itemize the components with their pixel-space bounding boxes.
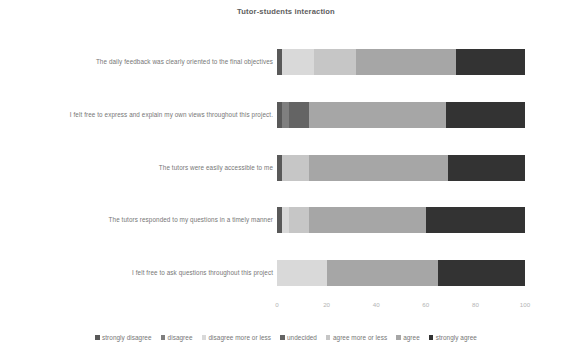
x-axis-tick-label: 20 bbox=[323, 301, 330, 308]
category-label: The tutors were easily accessible to me bbox=[11, 164, 273, 172]
legend-item[interactable]: agree bbox=[396, 334, 420, 341]
legend-item[interactable]: disagree bbox=[161, 334, 193, 341]
plot-area bbox=[277, 36, 525, 299]
bar-segment[interactable] bbox=[446, 102, 525, 128]
legend-item[interactable]: disagree more or less bbox=[202, 334, 272, 341]
category-axis-labels: The daily feedback was clearly oriented … bbox=[8, 36, 273, 299]
bar-segment[interactable] bbox=[282, 207, 289, 233]
x-axis-tick-label: 0 bbox=[275, 301, 278, 308]
category-label: The tutors responded to my questions in … bbox=[11, 216, 273, 224]
bar-segment[interactable] bbox=[327, 260, 439, 286]
bar-segment[interactable] bbox=[309, 102, 445, 128]
bar-segment[interactable] bbox=[282, 49, 314, 75]
bar-segment[interactable] bbox=[309, 155, 448, 181]
legend-swatch-icon bbox=[161, 335, 166, 340]
legend-label: disagree more or less bbox=[209, 334, 272, 341]
x-axis-tick-label: 100 bbox=[520, 301, 530, 308]
bar-row[interactable] bbox=[277, 155, 525, 181]
legend-label: disagree bbox=[168, 334, 193, 341]
legend-label: strongly agree bbox=[436, 334, 477, 341]
category-label: I felt free to express and explain my ow… bbox=[11, 111, 273, 119]
category-label: The daily feedback was clearly oriented … bbox=[11, 58, 273, 66]
bar-segment[interactable] bbox=[438, 260, 525, 286]
bar-row[interactable] bbox=[277, 49, 525, 75]
legend-swatch-icon bbox=[202, 335, 207, 340]
category-label: I felt free to ask questions throughout … bbox=[11, 269, 273, 277]
bar-segment[interactable] bbox=[456, 49, 525, 75]
legend-swatch-icon bbox=[280, 335, 285, 340]
bar-segment[interactable] bbox=[289, 207, 309, 233]
bar-row[interactable] bbox=[277, 260, 525, 286]
bar-row[interactable] bbox=[277, 102, 525, 128]
legend-label: strongly disagree bbox=[102, 334, 152, 341]
x-axis-tick-label: 40 bbox=[373, 301, 380, 308]
bar-segment[interactable] bbox=[282, 155, 309, 181]
legend-item[interactable]: strongly agree bbox=[429, 334, 477, 341]
bar-row[interactable] bbox=[277, 207, 525, 233]
legend-item[interactable]: strongly disagree bbox=[95, 334, 152, 341]
bar-segment[interactable] bbox=[314, 49, 356, 75]
bar-segment[interactable] bbox=[448, 155, 525, 181]
legend-swatch-icon bbox=[326, 335, 331, 340]
legend-label: undecided bbox=[287, 334, 317, 341]
legend-label: agree bbox=[403, 334, 420, 341]
x-axis: 020406080100 bbox=[277, 299, 525, 313]
legend-swatch-icon bbox=[95, 335, 100, 340]
bar-segment[interactable] bbox=[426, 207, 525, 233]
bar-rows bbox=[277, 36, 525, 299]
chart-title: Tutor-students interaction bbox=[0, 7, 572, 16]
bar-segment[interactable] bbox=[289, 102, 309, 128]
bar-segment[interactable] bbox=[356, 49, 455, 75]
legend-label: agree more or less bbox=[333, 334, 387, 341]
x-axis-tick-label: 80 bbox=[472, 301, 479, 308]
bar-segment[interactable] bbox=[309, 207, 426, 233]
chart-container: Tutor-students interaction The daily fee… bbox=[0, 0, 572, 362]
bar-segment[interactable] bbox=[277, 260, 327, 286]
legend-swatch-icon bbox=[396, 335, 401, 340]
legend-swatch-icon bbox=[429, 335, 434, 340]
bar-segment[interactable] bbox=[282, 102, 289, 128]
chart-legend: strongly disagreedisagreedisagree more o… bbox=[0, 334, 572, 341]
legend-item[interactable]: agree more or less bbox=[326, 334, 387, 341]
x-axis-tick-label: 60 bbox=[422, 301, 429, 308]
legend-item[interactable]: undecided bbox=[280, 334, 317, 341]
